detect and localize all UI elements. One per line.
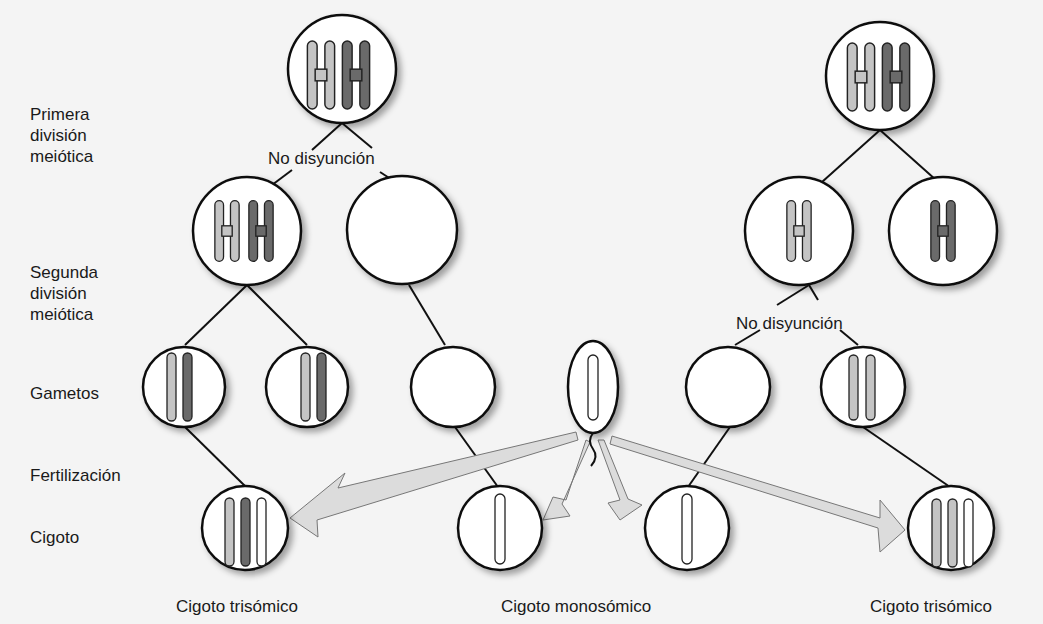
fertilization-arrows: [290, 432, 905, 552]
right-gamete-disomic: [821, 347, 905, 427]
diagram-graphics: [0, 0, 1043, 624]
meiosis-nondisjunction-diagram: Primera división meiótica Segunda divisi…: [0, 0, 1043, 624]
left-mi-cell-empty: [347, 176, 457, 284]
left-gamete-3-empty: [411, 347, 495, 427]
sperm-tail-icon: [590, 433, 596, 466]
right-parent-cell: [826, 22, 934, 130]
arrow-to-middle-zygote-icon: [543, 440, 590, 520]
sperm-chromosome: [588, 355, 598, 420]
lineage-lines: [185, 123, 950, 487]
right-gamete-empty: [686, 347, 770, 427]
left-mi-cell-with-chromosomes: [193, 177, 301, 285]
